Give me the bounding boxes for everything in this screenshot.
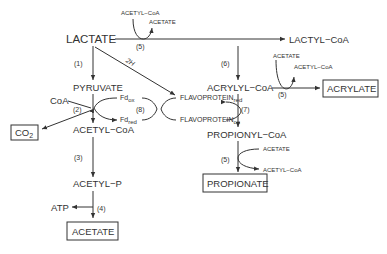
prop-acetyl-coa-label: ACETYL−CoA [263, 167, 302, 173]
node-lactyl-coa: LACTYL−CoA [289, 34, 350, 45]
top-acetate-label: ACETATE [149, 19, 176, 25]
step-2: (2) [73, 106, 82, 114]
cosubstrate-curve-propionate [238, 149, 259, 169]
step-6: (6) [221, 60, 230, 68]
node-lactate: LACTATE [66, 33, 116, 45]
node-acryl-coa: ACRYLYL−CoA [207, 82, 274, 93]
step-3: (3) [74, 154, 83, 162]
acr-acetyl-coa-label: ACETYL−CoA [294, 64, 333, 70]
cosubstrate-curve-acrylate [276, 60, 294, 89]
step-4: (4) [97, 205, 106, 213]
node-propionate: PROPIONATE [207, 178, 269, 189]
step-5-propionate: (5) [221, 156, 230, 164]
prop-acetate-label: ACETATE [263, 146, 290, 152]
node-flavoprotein-red: FLAVOPROTEINred [180, 94, 242, 103]
node-acetate: ACETATE [72, 226, 114, 237]
node-atp: ATP [51, 202, 69, 213]
exchange-curve-8-right [161, 98, 176, 120]
step-1: (1) [74, 60, 83, 68]
pathway-diagram: ACETYL−CoA ACETATE (5) LACTATE LACTYL−Co… [0, 0, 387, 254]
fd-ox-curve [94, 98, 117, 108]
node-acetyl-coa: ACETYL−CoA [73, 124, 135, 135]
step-5-top: (5) [136, 43, 145, 51]
node-flavoprotein-ox: FLAVOPROTEINox [180, 116, 240, 125]
node-fd-ox: Fdox [120, 94, 135, 103]
node-acetyl-p: ACETYL−P [73, 178, 122, 189]
fd-red-curve [94, 108, 117, 120]
step-5-acrylate: (5) [278, 91, 287, 99]
node-pyruvate: PYRUVATE [73, 82, 123, 93]
node-coa: CoA [50, 95, 69, 106]
acr-acetate-label: ACETATE [273, 53, 300, 59]
node-acrylate: ACRYLATE [327, 83, 376, 94]
top-acetyl-coa-label: ACETYL−CoA [121, 10, 160, 16]
step-8: (8) [136, 106, 145, 114]
node-propionyl-coa: PROPIONYL−CoA [207, 129, 287, 140]
step-7: (7) [241, 106, 250, 114]
